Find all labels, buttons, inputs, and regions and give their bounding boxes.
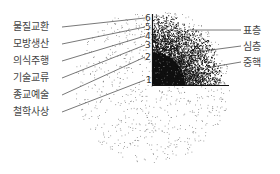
label-philosophy: 철학사상 bbox=[13, 106, 49, 118]
leader-line-deep bbox=[196, 46, 241, 52]
leader-line-3 bbox=[62, 45, 145, 78]
axis-number-2: 2 bbox=[145, 52, 151, 62]
leader-line-2 bbox=[62, 57, 145, 95]
label-imitative-production: 모방생산 bbox=[13, 38, 49, 50]
axis-number-3: 3 bbox=[145, 40, 151, 50]
label-religion-art: 종교예술 bbox=[13, 89, 49, 101]
label-core-layer: 중핵 bbox=[243, 57, 261, 69]
leader-line-5 bbox=[62, 27, 145, 44]
label-daily-life: 의식주행 bbox=[13, 55, 49, 67]
leader-line-core bbox=[206, 62, 241, 68]
leader-line-4 bbox=[62, 36, 145, 61]
leader-line-6 bbox=[62, 18, 145, 27]
label-tech-exchange: 기술교류 bbox=[13, 72, 49, 84]
culture-layer-diagram: 물질교환 모방생산 의식주행 기술교류 종교예술 철학사상 6 5 4 3 2 … bbox=[0, 0, 280, 174]
axis-number-1: 1 bbox=[146, 75, 152, 85]
leader-line-1 bbox=[62, 80, 145, 112]
label-material-exchange: 물질교환 bbox=[13, 21, 49, 33]
label-surface-layer: 표층 bbox=[243, 25, 261, 37]
label-deep-layer: 심층 bbox=[243, 41, 261, 53]
